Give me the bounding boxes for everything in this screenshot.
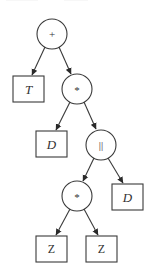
node-label-d-left: D xyxy=(46,137,57,152)
edge-star-to-d-left xyxy=(56,102,70,130)
node-label-plus: + xyxy=(49,28,55,40)
node-label-t: T xyxy=(25,82,33,97)
node-label-lower-star: * xyxy=(74,191,80,203)
node-label-star: * xyxy=(74,84,80,96)
node-plus: + xyxy=(37,19,67,49)
edge-lower-star-to-z-right xyxy=(84,209,98,235)
node-z-left: Z xyxy=(36,236,67,262)
edge-parallel-to-lower-star xyxy=(83,158,94,181)
expression-tree-diagram: + T * D || * D Z Z xyxy=(0,0,154,277)
edge-star-to-parallel xyxy=(84,102,96,129)
node-label-z-left: Z xyxy=(48,242,55,256)
edge-plus-to-t xyxy=(32,47,45,75)
node-star: * xyxy=(62,74,92,104)
node-label-parallel: || xyxy=(99,139,103,151)
node-d-right: D xyxy=(112,184,143,210)
node-parallel: || xyxy=(86,130,116,160)
node-d-left: D xyxy=(36,131,67,157)
node-label-d-right: D xyxy=(122,190,133,205)
node-t: T xyxy=(13,76,44,102)
node-z-right: Z xyxy=(86,236,117,262)
edge-plus-to-star xyxy=(59,47,71,74)
node-label-z-right: Z xyxy=(98,242,105,256)
edge-lower-star-to-z-left xyxy=(56,209,70,235)
edge-parallel-to-d-right xyxy=(108,158,123,183)
node-lower-star: * xyxy=(62,181,92,211)
